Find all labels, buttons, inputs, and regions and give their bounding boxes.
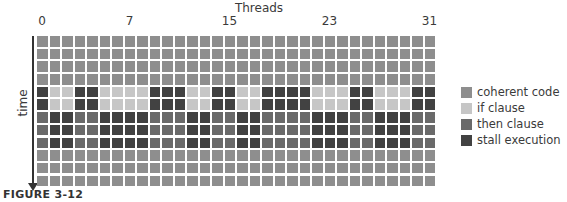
grid-cell bbox=[62, 138, 73, 149]
grid-cell bbox=[112, 87, 123, 98]
grid-cell bbox=[50, 61, 61, 72]
grid-cell bbox=[187, 112, 198, 123]
grid-cell bbox=[150, 61, 161, 72]
thread-tick-label: 15 bbox=[222, 14, 237, 28]
grid-cell bbox=[387, 176, 398, 187]
grid-cell bbox=[362, 87, 373, 98]
grid-cell bbox=[287, 61, 298, 72]
grid-cell bbox=[250, 112, 261, 123]
grid-cell bbox=[187, 163, 198, 174]
grid-cell bbox=[237, 61, 248, 72]
grid-cell bbox=[387, 61, 398, 72]
grid-cell bbox=[162, 138, 173, 149]
grid-cell bbox=[337, 99, 348, 110]
grid-cell bbox=[412, 163, 423, 174]
grid-cell bbox=[350, 49, 361, 60]
time-axis-label: time bbox=[16, 88, 30, 118]
grid-cell bbox=[125, 61, 136, 72]
grid-cell bbox=[62, 99, 73, 110]
grid-cell bbox=[387, 138, 398, 149]
grid-cell bbox=[150, 163, 161, 174]
legend-item: then clause bbox=[461, 116, 561, 132]
grid-cell bbox=[400, 99, 411, 110]
grid-cell bbox=[137, 125, 148, 136]
grid-cell bbox=[375, 112, 386, 123]
grid-cell bbox=[312, 87, 323, 98]
grid-cell bbox=[337, 138, 348, 149]
grid-cell bbox=[175, 61, 186, 72]
grid-cell bbox=[375, 138, 386, 149]
grid-cell bbox=[62, 87, 73, 98]
grid-cell bbox=[225, 163, 236, 174]
grid-cell bbox=[412, 125, 423, 136]
grid-cell bbox=[150, 99, 161, 110]
grid-cell bbox=[37, 112, 48, 123]
grid-cell bbox=[137, 112, 148, 123]
grid-cell bbox=[300, 176, 311, 187]
grid-cell bbox=[400, 36, 411, 47]
grid-cell bbox=[75, 87, 86, 98]
grid-cell bbox=[387, 74, 398, 85]
grid-cell bbox=[200, 150, 211, 161]
grid-cell bbox=[225, 138, 236, 149]
grid-cell bbox=[175, 163, 186, 174]
grid-cell bbox=[225, 150, 236, 161]
grid-cell bbox=[112, 49, 123, 60]
grid-cell bbox=[37, 163, 48, 174]
grid-cell bbox=[375, 49, 386, 60]
grid-cell bbox=[312, 125, 323, 136]
grid-cell bbox=[425, 87, 436, 98]
grid-cell bbox=[237, 163, 248, 174]
grid-cell bbox=[137, 87, 148, 98]
grid-cell bbox=[287, 49, 298, 60]
grid-cell bbox=[312, 150, 323, 161]
grid-cell bbox=[300, 150, 311, 161]
grid-cell bbox=[412, 36, 423, 47]
grid-cell bbox=[37, 138, 48, 149]
grid-cell bbox=[400, 176, 411, 187]
grid-cell bbox=[37, 125, 48, 136]
grid-cell bbox=[287, 87, 298, 98]
grid-cell bbox=[412, 138, 423, 149]
grid-cell bbox=[87, 99, 98, 110]
grid-cell bbox=[125, 176, 136, 187]
grid-cell bbox=[412, 49, 423, 60]
legend-swatch-icon bbox=[461, 119, 472, 130]
grid-cell bbox=[50, 125, 61, 136]
grid-cell bbox=[62, 150, 73, 161]
grid-cell bbox=[125, 87, 136, 98]
grid-cell bbox=[212, 150, 223, 161]
grid-cell bbox=[50, 49, 61, 60]
grid-cell bbox=[325, 99, 336, 110]
grid-cell bbox=[287, 163, 298, 174]
grid-cell bbox=[50, 163, 61, 174]
grid-cell bbox=[187, 138, 198, 149]
grid-cell bbox=[87, 61, 98, 72]
grid-cell bbox=[187, 87, 198, 98]
grid-cell bbox=[125, 125, 136, 136]
grid-cell bbox=[300, 36, 311, 47]
grid-cell bbox=[262, 36, 273, 47]
grid-cell bbox=[175, 87, 186, 98]
grid-cell bbox=[362, 61, 373, 72]
grid-cell bbox=[175, 99, 186, 110]
legend-label: if clause bbox=[477, 101, 525, 115]
grid-cell bbox=[350, 61, 361, 72]
grid-cell bbox=[350, 150, 361, 161]
grid-cell bbox=[225, 87, 236, 98]
grid-cell bbox=[300, 87, 311, 98]
grid-cell bbox=[137, 36, 148, 47]
grid-cell bbox=[262, 74, 273, 85]
grid-cell bbox=[100, 61, 111, 72]
grid-cell bbox=[50, 176, 61, 187]
grid-cell bbox=[75, 125, 86, 136]
grid-cell bbox=[387, 163, 398, 174]
grid-cell bbox=[212, 74, 223, 85]
grid-cell bbox=[275, 74, 286, 85]
grid-cell bbox=[62, 74, 73, 85]
grid-cell bbox=[325, 36, 336, 47]
grid-cell bbox=[325, 176, 336, 187]
grid-cell bbox=[200, 49, 211, 60]
grid-cell bbox=[150, 87, 161, 98]
grid-cell bbox=[300, 49, 311, 60]
